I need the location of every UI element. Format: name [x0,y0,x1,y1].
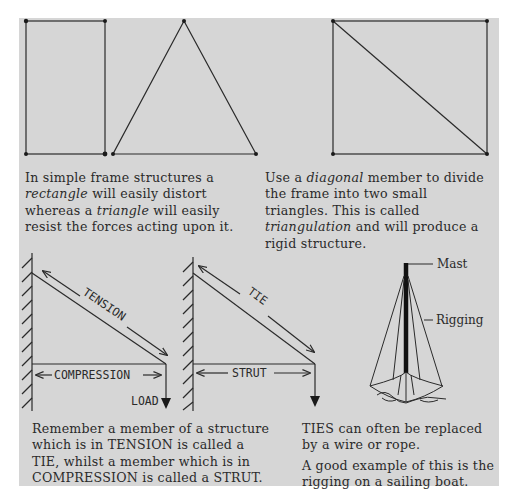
rectangle-frame [26,21,105,154]
text-line: TIE, whilst a member which is in [32,454,250,469]
text-line: TIES can often be replaced [302,421,482,436]
load-arrow [161,398,171,409]
text-line: Use a [265,170,307,185]
text-line: whereas a [25,203,97,218]
emphasis-triangulation: triangulation [265,219,351,234]
text-line: A good example of this is the [302,458,494,473]
triangulated-frame [333,21,487,154]
emphasis-diagonal: diagonal [307,170,364,185]
tie-load-arrow [310,396,320,407]
label-compression: COMPRESSION [54,368,130,382]
text-line: by a wire or rope. [302,437,420,452]
triangle-frame [113,21,256,154]
label-load: LOAD [131,394,159,408]
label-strut: STRUT [232,366,267,380]
text-line: triangles. This is called [265,203,420,218]
text-line: Remember a member of a structure [32,421,269,436]
tension-member [32,273,166,364]
label-tension: TENSION [80,285,128,324]
text-line: which is in TENSION is called a [32,437,244,452]
label-rigging: Rigging [436,313,484,327]
label-mast: Mast [437,257,468,271]
rectangle-joints [24,19,108,157]
text-line: rigid structure. [265,236,367,251]
text-line: resist the forces acting upon it. [25,219,233,234]
text-line: member to divide [363,170,484,185]
triangulation-text: Use a diagonal member to divide the fram… [265,170,484,252]
rectangle-vs-triangle-text: In simple frame structures a rectangle w… [25,170,233,236]
text-line: will easily distort [88,186,207,201]
text-line: In simple frame structures a [25,170,214,185]
emphasis-rectangle: rectangle [25,186,88,201]
triangle-joints [111,19,258,156]
rigging-1 [370,276,404,386]
text-line: COMPRESSION is called a STRUT. [32,470,263,485]
tie-strut-diagram [183,257,315,411]
text-line: and will produce a [351,219,478,234]
tension-compression-diagram [22,253,167,411]
text-line: the frame into two small [265,186,427,201]
wall-hatching-left [22,258,32,408]
label-tie: TIE [245,284,270,308]
sailing-boat [370,263,446,403]
text-line: will easily [149,203,219,218]
rigging-text: TIES can often be replaced by a wire or … [302,421,494,491]
wall-hatching-right [183,262,193,410]
tie-strut-text: Remember a member of a structure which i… [32,421,269,487]
text-line: rigging on a sailing boat. [302,474,469,489]
emphasis-triangle: triangle [97,203,149,218]
